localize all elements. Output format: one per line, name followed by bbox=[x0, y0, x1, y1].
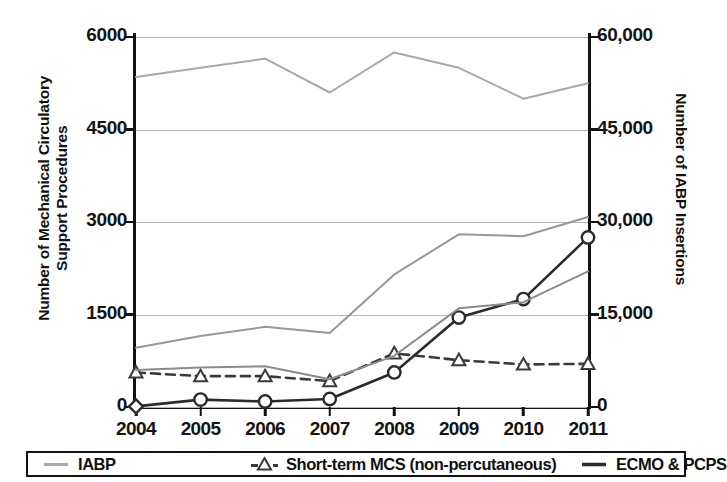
y-axis-right-title: Number of IABP Insertions bbox=[672, 44, 690, 334]
x-axis-tick-label: 2006 bbox=[245, 418, 285, 440]
legend-entry[interactable]: ECMO & PCPS bbox=[580, 455, 727, 474]
x-axis-tick-mark bbox=[522, 407, 525, 416]
x-axis-tick-mark bbox=[328, 407, 331, 416]
y-axis-right-tick-label: 45,000 bbox=[588, 117, 653, 139]
data-point-marker bbox=[194, 393, 206, 405]
gridline bbox=[136, 407, 588, 408]
x-axis-tick-mark bbox=[393, 407, 396, 416]
x-axis-tick-label: 2008 bbox=[374, 418, 414, 440]
x-axis-tick-label: 2007 bbox=[310, 418, 350, 440]
legend-marker-icon bbox=[42, 456, 72, 472]
y-axis-left-tick-label: 6000 bbox=[86, 24, 136, 46]
data-point-marker bbox=[259, 395, 271, 407]
y-axis-right-tick-label: 30,000 bbox=[588, 209, 653, 231]
series-line bbox=[136, 52, 588, 98]
data-point-marker bbox=[453, 311, 465, 323]
legend-entry[interactable]: IABP bbox=[42, 455, 116, 474]
x-axis-tick-label: 2011 bbox=[569, 418, 608, 440]
series-line bbox=[136, 217, 588, 348]
legend-label: IABP bbox=[78, 455, 116, 474]
legend-entry[interactable]: Short-term MCS (non-percutaneous) bbox=[250, 455, 556, 474]
x-axis-tick-label: 2004 bbox=[116, 418, 156, 440]
x-axis-tick-label: 2010 bbox=[503, 418, 543, 440]
legend-marker-icon bbox=[580, 456, 610, 472]
y-axis-left-title: Number of Mechanical Circulatory Support… bbox=[35, 53, 72, 343]
x-axis-tick-mark bbox=[199, 407, 202, 416]
y-axis-right-tick-label: 60,000 bbox=[588, 24, 653, 46]
y-axis-right-tick-label: 0 bbox=[588, 394, 607, 416]
data-point-marker bbox=[388, 366, 400, 378]
series-ecmo-pcps bbox=[129, 231, 594, 413]
legend-label: ECMO & PCPS bbox=[616, 455, 727, 474]
chart-legend: IABPShort-term MCS (non-percutaneous)ECM… bbox=[26, 451, 686, 477]
legend-label: Short-term MCS (non-percutaneous) bbox=[286, 455, 556, 474]
x-axis-tick-label: 2009 bbox=[439, 418, 479, 440]
series-lines bbox=[136, 37, 588, 407]
x-axis-tick-label: 2005 bbox=[181, 418, 221, 440]
data-point-marker bbox=[324, 393, 336, 405]
data-point-marker bbox=[582, 231, 594, 243]
series-iabp bbox=[136, 52, 588, 98]
x-axis-tick-mark bbox=[458, 407, 461, 416]
x-axis-tick-mark bbox=[587, 407, 590, 416]
y-axis-left-tick-label: 3000 bbox=[86, 209, 136, 231]
series-total-mcs bbox=[136, 217, 588, 348]
plot-area: 01500300045006000 015,00030,00045,00060,… bbox=[136, 37, 588, 407]
y-axis-right-tick-label: 15,000 bbox=[588, 302, 653, 324]
legend-marker-icon bbox=[250, 456, 280, 472]
y-axis-left-tick-label: 4500 bbox=[86, 117, 136, 139]
y-axis-left-tick-label: 1500 bbox=[86, 302, 136, 324]
